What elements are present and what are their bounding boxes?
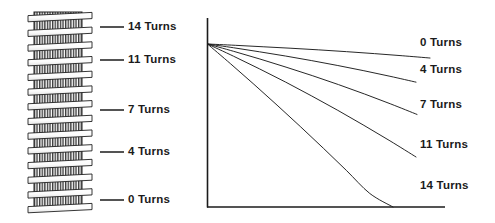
chart-label-4-turns: 4 Turns [420, 64, 462, 76]
coil-label-4-turns: 4 Turns [128, 146, 170, 158]
coil-diagram-panel: 14 Turns11 Turns7 Turns4 Turns0 Turns [0, 0, 205, 223]
coil-label-11-turns: 11 Turns [128, 54, 176, 66]
curve-14-turns [208, 44, 394, 207]
chart-label-11-turns: 11 Turns [420, 139, 468, 151]
chart-label-14-turns: 14 Turns [420, 180, 469, 192]
decay-curve-chart-panel: 0 Turns4 Turns7 Turns11 Turns14 Turns [200, 0, 495, 223]
chart-curve-group [208, 44, 431, 207]
coil-label-14-turns: 14 Turns [128, 21, 177, 33]
figure-root: 14 Turns11 Turns7 Turns4 Turns0 Turns 0 … [0, 0, 495, 223]
chart-label-7-turns: 7 Turns [420, 99, 462, 111]
coil-label-0-turns: 0 Turns [128, 194, 170, 206]
coil-label-7-turns: 7 Turns [128, 104, 170, 116]
chart-label-0-turns: 0 Turns [420, 37, 462, 49]
coil-leader-lines [0, 0, 205, 223]
chart-axes [207, 18, 445, 208]
curve-0-turns [208, 44, 431, 58]
